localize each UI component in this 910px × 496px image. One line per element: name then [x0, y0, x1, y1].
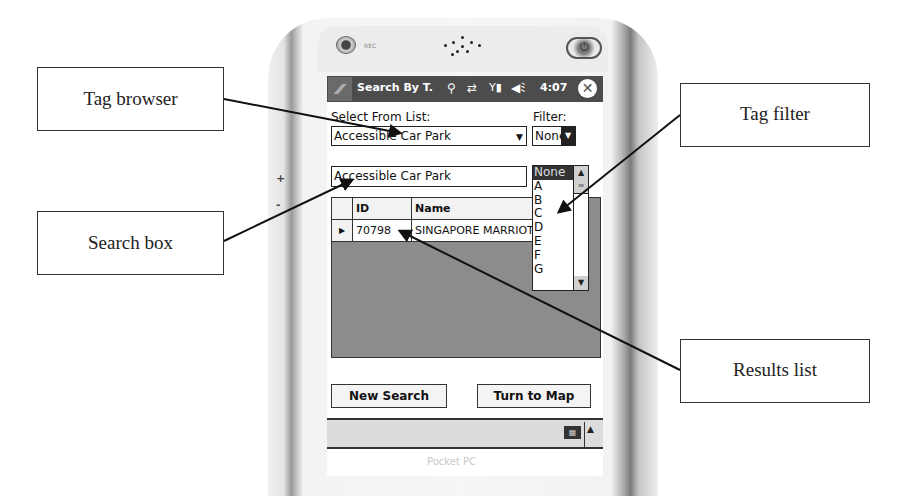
cell-name[interactable]: SINGAPORE MARRIOTT	[412, 220, 542, 242]
tag-browser-select[interactable]: Accessible Car Park ▼	[331, 126, 527, 146]
chevron-down-icon[interactable]: ▼	[516, 128, 523, 146]
cell-id[interactable]: 70798	[353, 220, 412, 242]
scroll-thumb[interactable]: ≡	[574, 180, 588, 194]
power-icon: ⏻	[580, 41, 589, 54]
speaker-grille-icon	[443, 36, 483, 60]
signal-icon[interactable]: Y▮	[489, 80, 502, 96]
power-button[interactable]: ⏻	[566, 37, 602, 59]
antenna-icon[interactable]: ⚲	[447, 80, 456, 96]
menu-separator	[584, 422, 585, 447]
tag-filter-select[interactable]: None ▼	[532, 126, 576, 146]
search-input-value: Accessible Car Park	[334, 169, 451, 183]
title-bar: ⁄⁄ Search By T. ⚲ ⇄ Y▮ ◀ﾐ 4:07 ✕	[327, 76, 603, 102]
clock[interactable]: 4:07	[540, 81, 567, 94]
filter-option-e[interactable]: E	[533, 235, 574, 249]
close-button[interactable]: ✕	[578, 79, 597, 98]
filter-option-f[interactable]: F	[533, 249, 574, 263]
volume-icon[interactable]: ◀ﾐ	[511, 80, 526, 96]
input-panel-arrow-icon[interactable]: ▲	[587, 424, 594, 434]
device-screen: ⁄⁄ Search By T. ⚲ ⇄ Y▮ ◀ﾐ 4:07 ✕ Select …	[327, 76, 603, 476]
filter-option-c[interactable]: C	[533, 207, 574, 221]
chevron-down-icon[interactable]: ▼	[561, 127, 575, 145]
callout-tag-browser: Tag browser	[37, 67, 224, 131]
results-header-row: ID Name	[332, 198, 542, 220]
filter-option-g[interactable]: G	[533, 263, 574, 277]
filter-option-b[interactable]: B	[533, 194, 574, 208]
app-title: Search By T.	[357, 81, 433, 94]
record-button[interactable]	[336, 36, 356, 54]
filter-option-d[interactable]: D	[533, 221, 574, 235]
callout-search-box: Search box	[37, 211, 224, 275]
tag-browser-value: Accessible Car Park	[334, 129, 451, 143]
column-header-name[interactable]: Name	[412, 198, 542, 220]
turn-to-map-button[interactable]: Turn to Map	[477, 384, 591, 408]
scroll-up-arrow-icon[interactable]: ▲	[574, 166, 588, 180]
callout-results-list: Results list	[680, 339, 870, 403]
select-from-list-label: Select From List:	[331, 110, 430, 124]
volume-up-icon[interactable]: +	[276, 166, 286, 192]
dropdown-scrollbar[interactable]: ▲ ≡ ▼	[573, 166, 588, 290]
column-header-id[interactable]: ID	[353, 198, 412, 220]
filter-label: Filter:	[533, 110, 567, 124]
volume-down-icon[interactable]: -	[276, 192, 286, 218]
row-selector-arrow-icon[interactable]: ▶	[332, 220, 353, 242]
keyboard-icon[interactable]: ▦	[564, 426, 581, 439]
callout-tag-filter: Tag filter	[680, 83, 870, 147]
new-search-button[interactable]: New Search	[331, 384, 447, 408]
volume-rocker[interactable]: + -	[276, 166, 286, 218]
tag-filter-dropdown-list[interactable]: None A B C D E F G ▲ ≡ ▼	[532, 165, 589, 291]
search-input[interactable]: Accessible Car Park	[331, 166, 527, 187]
table-row[interactable]: ▶ 70798 SINGAPORE MARRIOTT	[332, 220, 542, 242]
pocket-pc-logo: Pocket PC	[427, 456, 476, 467]
filter-option-a[interactable]: A	[533, 180, 574, 194]
sync-icon[interactable]: ⇄	[467, 80, 477, 96]
scroll-down-arrow-icon[interactable]: ▼	[574, 276, 588, 290]
menu-bar: ▦ ▲	[327, 418, 603, 449]
pocket-pc-device: REC ⏻ + - ⁄⁄ Search By T. ⚲ ⇄ Y▮ ◀ﾐ 4:07…	[268, 18, 658, 496]
windows-flag-icon[interactable]: ⁄⁄	[328, 77, 352, 101]
filter-option-none[interactable]: None	[533, 166, 574, 180]
row-header-corner	[332, 198, 353, 220]
rec-label: REC	[364, 42, 376, 49]
